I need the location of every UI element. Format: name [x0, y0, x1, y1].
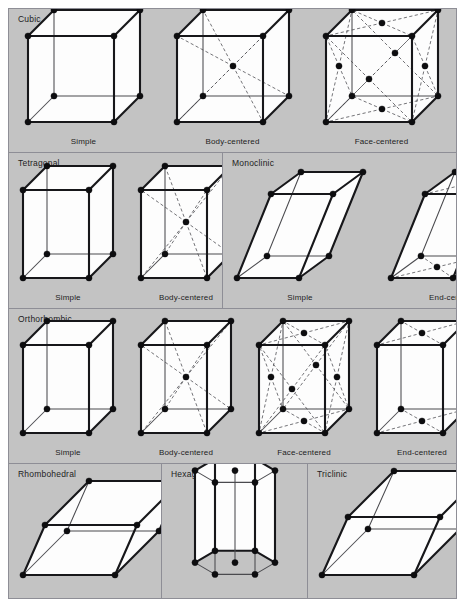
lattice-point	[50, 93, 56, 99]
lattice-point	[334, 374, 340, 380]
lattice-point	[191, 560, 197, 566]
unit-cell-group	[9, 464, 161, 598]
lattice-point	[365, 76, 371, 82]
unit-cell-label: End-centered	[429, 293, 456, 302]
unit-cell-diagram	[9, 467, 161, 589]
front-face	[141, 190, 207, 278]
unit-cell-diagram	[223, 158, 377, 292]
lattice-point	[285, 93, 291, 99]
unit-cell-monoclinic-end: End-centered	[377, 158, 456, 308]
panel-rhombohedral: Rhombohedral	[9, 464, 161, 598]
unit-cell-cube-simple: Simple	[14, 9, 154, 152]
lattice-point	[199, 9, 205, 13]
unit-cell-tall-face: Face-centered	[245, 309, 363, 463]
lattice-point	[20, 187, 26, 193]
lattice-point	[86, 430, 92, 436]
lattice-point	[374, 430, 380, 436]
unit-cell-tall-simple: Simple	[9, 153, 127, 308]
unit-cell-group	[162, 464, 307, 598]
front-face	[23, 190, 89, 278]
panel-triclinic: Triclinic	[307, 464, 456, 598]
lattice-point	[110, 251, 116, 257]
row-orthorhombic: OrthorhombicSimpleBody-centeredFace-cent…	[9, 308, 456, 463]
lattice-point	[44, 163, 50, 169]
lattice-point	[134, 522, 140, 528]
lattice-point	[298, 169, 304, 175]
lattice-point	[450, 275, 456, 281]
lattice-point	[348, 9, 354, 13]
lattice-point	[280, 406, 286, 412]
lattice-point	[259, 33, 265, 39]
unit-cell-label: Simple	[287, 293, 312, 302]
lattice-point	[251, 479, 257, 485]
unit-cell-label: Face-centered	[355, 137, 409, 146]
lattice-point	[268, 191, 274, 197]
unit-cell-diagram	[9, 309, 127, 447]
lattice-point	[86, 275, 92, 281]
lattice-point	[452, 169, 456, 175]
lattice-point	[434, 93, 440, 99]
lattice-point	[411, 572, 417, 578]
lattice-point	[271, 468, 277, 474]
row-tetragonal-monoclinic: TetragonalSimpleBody-centeredMonoclinicS…	[9, 152, 456, 308]
top-face	[348, 471, 456, 517]
lattice-point	[346, 318, 352, 324]
bravais-lattice-figure: CubicSimpleBody-centeredFace-centeredTet…	[8, 8, 457, 599]
lattice-point	[251, 548, 257, 554]
lattice-point	[289, 386, 295, 392]
lattice-point	[419, 330, 425, 336]
unit-cell-cube-face: Face-centered	[312, 9, 452, 152]
lattice-point	[365, 526, 371, 532]
lattice-point	[86, 478, 92, 484]
lattice-point	[440, 430, 446, 436]
unit-cell-label: Simple	[55, 293, 80, 302]
lattice-point	[20, 342, 26, 348]
lattice-point	[256, 342, 262, 348]
unit-cell-diagram	[312, 9, 452, 136]
lattice-point	[199, 93, 205, 99]
lattice-point	[378, 20, 384, 26]
unit-cell-diagram	[245, 309, 363, 447]
lattice-point	[64, 528, 70, 534]
panel-cubic: CubicSimpleBody-centeredFace-centered	[9, 9, 456, 152]
lattice-point	[330, 191, 336, 197]
unit-cell-group: SimpleBody-centeredFace-centered	[9, 9, 456, 152]
cell-edge	[255, 563, 275, 575]
lattice-point	[20, 275, 26, 281]
lattice-point	[204, 275, 210, 281]
lattice-point	[434, 264, 440, 270]
lattice-point	[162, 318, 168, 324]
lattice-point	[378, 106, 384, 112]
unit-cell-monoclinic-simple: Simple	[223, 158, 377, 308]
unit-cell-tall-simple: Simple	[9, 309, 127, 463]
panel-orthorhombic: OrthorhombicSimpleBody-centeredFace-cent…	[9, 309, 456, 463]
lattice-point	[24, 119, 30, 125]
row-rhombohedral-hexagonal-triclinic: RhombohedralHexagonalTriclinic	[9, 463, 456, 598]
lattice-point	[348, 93, 354, 99]
lattice-point	[136, 93, 142, 99]
lattice-point	[162, 163, 168, 169]
unit-cell-diagram	[308, 464, 456, 589]
lattice-point	[162, 406, 168, 412]
lattice-point	[346, 406, 352, 412]
lattice-point	[173, 119, 179, 125]
lattice-point	[86, 187, 92, 193]
lattice-point	[335, 63, 341, 69]
panel-hexagonal: Hexagonal	[161, 464, 307, 598]
lattice-point	[313, 362, 319, 368]
lattice-point	[408, 33, 414, 39]
lattice-point	[44, 318, 50, 324]
unit-cell-group: SimpleEnd-centered	[223, 153, 456, 308]
lattice-point	[183, 374, 189, 380]
lattice-point	[110, 318, 116, 324]
lattice-point	[173, 33, 179, 39]
lattice-point	[138, 342, 144, 348]
front-face	[23, 345, 89, 433]
lattice-point	[211, 548, 217, 554]
panel-monoclinic: MonoclinicSimpleEnd-centered	[222, 153, 456, 308]
lattice-point	[50, 9, 56, 13]
lattice-point	[437, 514, 443, 520]
lattice-point	[229, 63, 235, 69]
lattice-point	[112, 572, 118, 578]
panel-tetragonal: TetragonalSimpleBody-centered	[9, 153, 222, 308]
